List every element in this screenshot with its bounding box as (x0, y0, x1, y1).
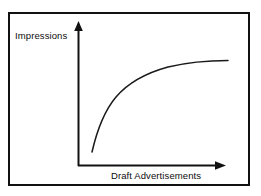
y-axis-label: Impressions (15, 30, 67, 41)
figure-container: Impressions Draft Advertisements (0, 0, 261, 196)
y-axis-arrowhead-icon (74, 21, 83, 31)
x-axis-arrowhead-icon (215, 161, 226, 170)
response-curve (92, 61, 228, 153)
x-axis-label: Draft Advertisements (111, 170, 201, 181)
